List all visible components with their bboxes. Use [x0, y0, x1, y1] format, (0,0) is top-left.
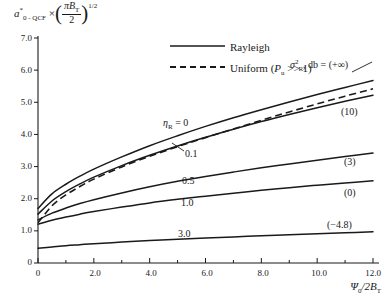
leader-line-infinity [352, 62, 372, 72]
curve-eta-r-0 [38, 80, 373, 208]
curves [38, 80, 373, 248]
plot-area [0, 0, 387, 297]
curve-eta-r-3-0 [38, 232, 373, 248]
curve-eta-r-1-0 [38, 181, 373, 224]
curve-uniform [38, 89, 373, 223]
legend-marks [170, 46, 225, 67]
chart-figure: a*0 - QCF ×(πBT2)1/2 Ψ0/2BT Rayleigh Uni… [0, 0, 387, 297]
axes [34, 36, 379, 263]
curve-eta-r-0-5 [38, 153, 373, 220]
